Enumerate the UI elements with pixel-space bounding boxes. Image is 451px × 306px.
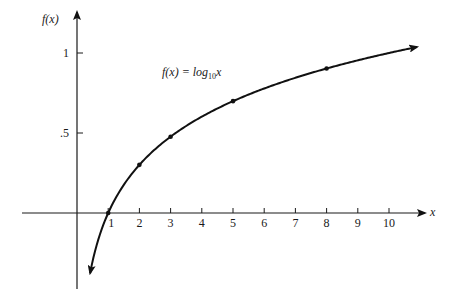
data-point: [324, 66, 329, 71]
y-tick-label: .5: [60, 126, 69, 140]
function-annotation: f(x) = log10x: [162, 65, 222, 81]
x-tick-label: 2: [136, 216, 142, 230]
x-tick-label: 5: [230, 216, 236, 230]
x-axis-label: x: [429, 205, 436, 219]
x-tick-label: 10: [383, 216, 395, 230]
y-axis-label: f(x): [42, 12, 59, 26]
annotation-subscript: 10: [208, 72, 216, 81]
data-point: [106, 211, 111, 216]
data-point: [168, 134, 173, 139]
x-tick-label: 3: [168, 216, 174, 230]
y-tick-label: 1: [63, 46, 69, 60]
curve-lower-branch: [90, 165, 139, 273]
annotation-prefix: f(x) = log: [162, 65, 208, 79]
x-tick-label: 7: [292, 216, 298, 230]
x-tick-label: 8: [324, 216, 330, 230]
x-tick-label: 4: [199, 216, 205, 230]
x-tick-label: 9: [355, 216, 361, 230]
log-chart: 12345678910.51 f(x) = log10x f(x) x: [0, 0, 451, 306]
x-tick-label: 6: [261, 216, 267, 230]
x-tick-label: 1: [108, 216, 114, 230]
annotation-variable: x: [215, 65, 222, 79]
data-point: [231, 99, 236, 104]
data-point: [137, 163, 142, 168]
